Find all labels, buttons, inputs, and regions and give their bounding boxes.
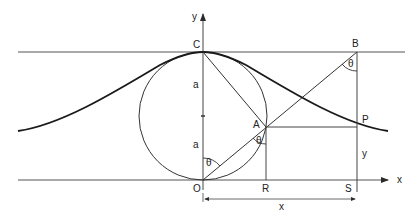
x-axis-label: x bbox=[397, 174, 402, 185]
label-a-upper: a bbox=[193, 79, 199, 90]
label-C: C bbox=[193, 39, 200, 50]
y-axis-label: y bbox=[192, 11, 197, 22]
label-O: O bbox=[193, 183, 201, 194]
label-y-dim: y bbox=[362, 148, 367, 159]
label-A: A bbox=[253, 119, 260, 130]
label-S: S bbox=[345, 183, 352, 194]
label-P: P bbox=[362, 114, 369, 125]
label-R: R bbox=[262, 183, 269, 194]
diagram: C B A P O R S y x a a θ θ θ y x bbox=[0, 0, 420, 222]
label-a-lower: a bbox=[193, 139, 199, 150]
label-B: B bbox=[352, 38, 359, 49]
line-OB bbox=[203, 52, 357, 180]
label-x-dim: x bbox=[279, 201, 284, 212]
line-CA bbox=[203, 52, 266, 127]
label-theta-B: θ bbox=[348, 58, 354, 69]
diagram-canvas: C B A P O R S y x a a θ θ θ y x bbox=[0, 0, 420, 222]
label-theta-O: θ bbox=[206, 157, 212, 168]
label-theta-A: θ bbox=[256, 135, 262, 146]
